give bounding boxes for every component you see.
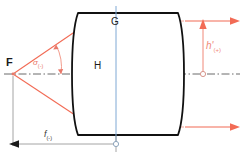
focal-length-label: f(-) [44, 130, 52, 141]
focal-dimension-arrowhead [9, 140, 19, 147]
principal-point-rear-label: H [94, 61, 101, 71]
ray-upper-arrowhead [230, 17, 240, 25]
lens-body [72, 13, 184, 135]
principal-point-front-label: G [111, 17, 119, 27]
optical-ray-diagram: F G H σ(-) h'(+) f(-) [0, 0, 244, 164]
image-height-base-marker [200, 71, 205, 76]
image-height-label: h'(+) [206, 41, 221, 53]
angle-arc-arrowhead-bottom [58, 69, 63, 74]
ray-lower-incident [13, 74, 78, 117]
focal-point-label: F [6, 57, 13, 68]
image-height-subscript: (+) [213, 47, 221, 53]
angle-sigma-label: σ(-) [33, 59, 43, 69]
angle-sigma-subscript: (-) [38, 63, 44, 69]
focal-dimension-end-marker [113, 141, 118, 146]
ray-lower-arrowhead [230, 123, 240, 131]
diagram-canvas [0, 0, 244, 164]
focal-length-subscript: (-) [47, 135, 53, 141]
focal-point-marker [12, 73, 15, 76]
ray-upper-incident [13, 31, 76, 74]
